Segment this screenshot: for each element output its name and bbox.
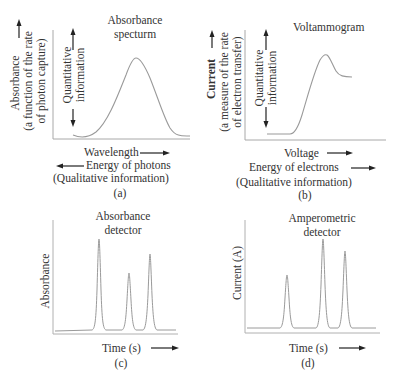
panel-c-absorbance-detector: Absorbance detector Absorbance Time (s) …: [0, 200, 196, 381]
arrow-right-icon: [163, 151, 170, 156]
arrow-down-icon: [71, 120, 76, 127]
absorbance-curve: [73, 58, 190, 137]
panel-c-caption: (c): [101, 357, 141, 370]
chromatogram-trace: [55, 239, 176, 331]
arrow-right-icon: [359, 346, 366, 351]
arrow-right-icon: [172, 346, 179, 351]
panel-a-ylabel-line3: of photon capture): [35, 16, 48, 146]
panel-c-ylabel: Absorbance: [39, 250, 52, 312]
panel-c-title-line1: Absorbance: [80, 210, 166, 223]
panel-b-qualitative-label: (Qualitative information): [236, 176, 352, 189]
panel-a-absorbance-spectrum: Absorbance specturm Absorbance (a functi…: [0, 0, 196, 200]
arrow-right-icon: [369, 166, 376, 171]
panel-a-qualitative-label: (Qualitative information): [53, 172, 169, 185]
panel-d-xlabel: Time (s): [289, 342, 328, 355]
panel-d-title-line1: Amperometric: [280, 212, 364, 225]
panel-a-ylabel-line1: Absorbance: [9, 38, 22, 128]
panel-b-xlabel: Voltage: [284, 147, 319, 160]
panel-b-quant-line2: information: [266, 46, 279, 110]
panel-a-title-line2: specturm: [80, 28, 190, 41]
arrow-up-icon: [17, 19, 22, 26]
panel-d-caption: (d): [288, 357, 328, 370]
arrow-left-icon: [56, 164, 63, 169]
panel-a-caption: (a): [100, 187, 140, 200]
panel-b-voltammogram: Voltammogram Current (a measure of the r…: [196, 0, 393, 200]
panel-b-quant-line1: Quantitative: [253, 46, 266, 110]
voltammogram-curve: [267, 55, 352, 134]
panel-a-energy-label: Energy of photons: [86, 159, 171, 172]
panel-b-title: Voltammogram: [293, 21, 364, 34]
arrow-down-icon: [264, 121, 269, 128]
panel-b-ylabel-line2: (a measure of the rate: [218, 30, 231, 134]
panel-b-energy-label: Energy of electrons: [249, 161, 339, 174]
arrow-up-icon: [264, 29, 269, 36]
panel-a-title-line1: Absorbance: [80, 14, 190, 27]
panel-a-quant-line2: information: [74, 45, 87, 105]
panel-a-quant-line1: Quantitative: [61, 45, 74, 105]
panel-b-ylabel-bold: Current: [205, 54, 218, 104]
panel-d-ylabel: Current (A): [231, 238, 244, 308]
chromatogram-trace: [247, 239, 376, 328]
panel-b-ylabel-line3: of electron transfer): [231, 30, 244, 134]
arrow-up-icon: [71, 28, 76, 35]
panel-c-title-line2: detector: [80, 224, 166, 237]
panel-d-title-line2: detector: [280, 226, 364, 239]
arrow-up-icon: [210, 30, 215, 37]
arrow-right-icon: [346, 151, 353, 156]
panel-a-xlabel: Wavelength: [84, 146, 139, 159]
panel-c-xlabel: Time (s): [102, 342, 141, 355]
panel-d-amperometric-detector: Amperometric detector Current (A) Time (…: [196, 200, 393, 381]
panel-a-ylabel-line2: (a function of the rate: [22, 16, 35, 146]
